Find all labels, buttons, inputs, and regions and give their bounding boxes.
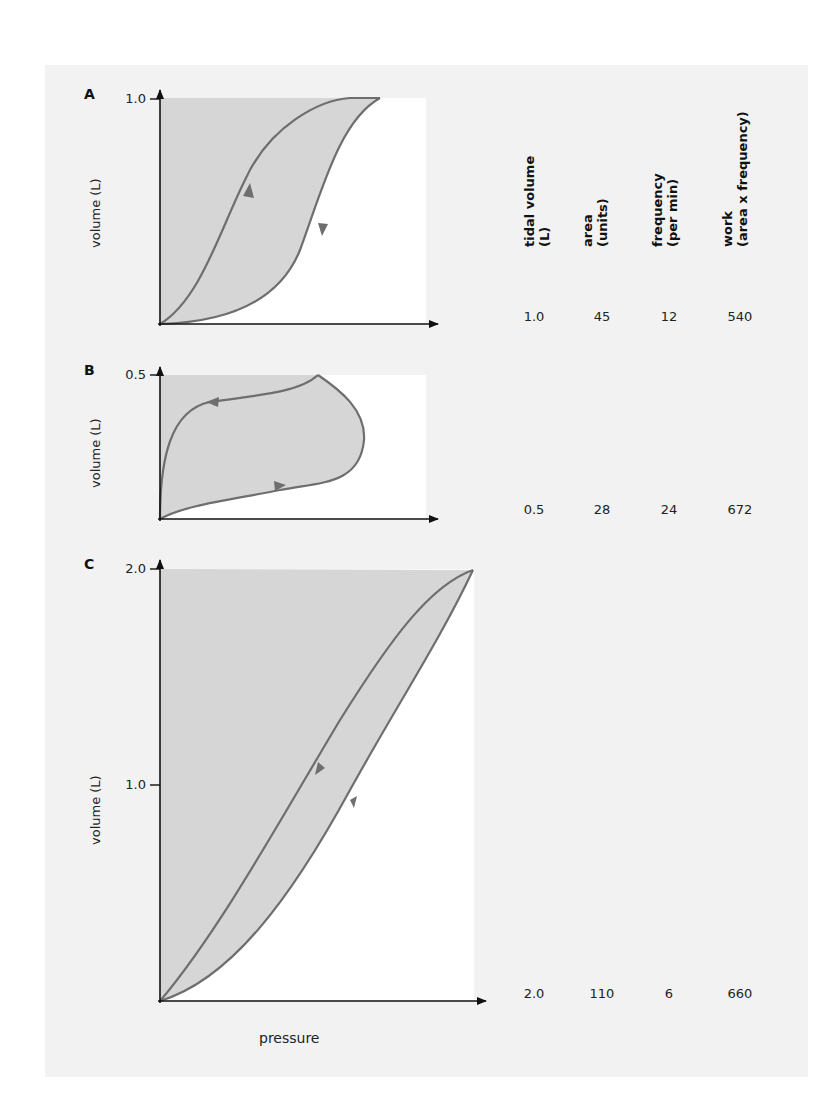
- panel-label-a: A: [84, 86, 95, 102]
- cell-frequency: 12: [644, 309, 694, 324]
- cell-frequency: 6: [644, 986, 694, 1001]
- y-tick-c-mid: 1.0: [106, 777, 146, 792]
- panel-label-c: C: [84, 556, 94, 572]
- chart-c: [150, 560, 486, 1003]
- column-header-area: area (units): [580, 198, 610, 247]
- cell-work: 660: [715, 986, 765, 1001]
- cell-work: 540: [715, 309, 765, 324]
- cell-area: 28: [577, 502, 627, 517]
- y-tick-b-top: 0.5: [106, 367, 146, 382]
- y-tick-c-top: 2.0: [106, 561, 146, 576]
- panel-label-b: B: [84, 362, 95, 378]
- y-tick-a-top: 1.0: [106, 91, 146, 106]
- column-header-work: work (area x frequency): [720, 111, 750, 247]
- y-axis-label-a: volume (L): [88, 178, 103, 248]
- column-header-tidal-volume: tidal volume (L): [522, 156, 552, 247]
- pv-loops-figure: [0, 0, 830, 1100]
- column-header-frequency: frequency (per min): [650, 173, 680, 247]
- cell-area: 45: [577, 309, 627, 324]
- cell-area: 110: [577, 986, 627, 1001]
- chart-b: [150, 367, 438, 521]
- chart-a: [150, 90, 438, 326]
- x-axis-label: pressure: [259, 1030, 319, 1046]
- cell-tidal-volume: 1.0: [509, 309, 559, 324]
- y-axis-label-c: volume (L): [88, 775, 103, 845]
- cell-tidal-volume: 0.5: [509, 502, 559, 517]
- cell-tidal-volume: 2.0: [509, 986, 559, 1001]
- y-axis-label-b: volume (L): [88, 418, 103, 488]
- cell-frequency: 24: [644, 502, 694, 517]
- cell-work: 672: [715, 502, 765, 517]
